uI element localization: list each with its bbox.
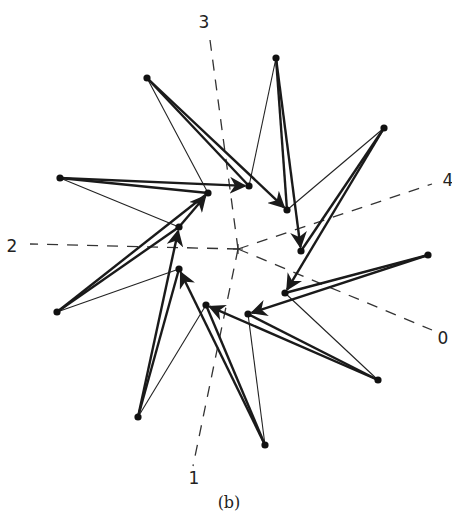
outer-node-dot bbox=[134, 413, 141, 420]
thin-edge bbox=[138, 305, 206, 417]
star-polygon-diagram: 01234 (b) bbox=[0, 0, 452, 518]
thin-edge bbox=[249, 58, 276, 186]
axis-label-3: 3 bbox=[199, 12, 210, 32]
heavy-edge bbox=[285, 255, 428, 293]
axis-line-3 bbox=[210, 40, 238, 249]
arrow-edge bbox=[276, 58, 300, 247]
heavy-edge bbox=[147, 78, 249, 186]
outer-node-dot bbox=[374, 376, 381, 383]
inner-node-dot bbox=[283, 206, 290, 213]
thin-edge bbox=[57, 269, 179, 312]
heavy-edge bbox=[138, 269, 179, 417]
thin-edge bbox=[147, 78, 208, 193]
center-cross-icon bbox=[233, 244, 243, 254]
arrow-edge bbox=[210, 307, 378, 380]
inner-node-dot bbox=[175, 223, 182, 230]
outer-node-dot bbox=[143, 74, 150, 81]
axis-line-2 bbox=[30, 244, 238, 249]
arrow-edge bbox=[252, 255, 428, 313]
outer-node-dot bbox=[261, 441, 268, 448]
inner-node-dot bbox=[244, 310, 251, 317]
outer-node-dot bbox=[380, 124, 387, 131]
arrow-edge bbox=[287, 128, 384, 290]
axis-label-1: 1 bbox=[189, 468, 200, 488]
figure-caption: (b) bbox=[218, 493, 241, 512]
thin-edge bbox=[285, 293, 378, 380]
inner-node-dot bbox=[202, 301, 209, 308]
inner-node-dot bbox=[281, 289, 288, 296]
axis-label-0: 0 bbox=[438, 328, 449, 348]
axis-label-2: 2 bbox=[7, 236, 18, 256]
inner-node-dot bbox=[204, 189, 211, 196]
dashed-axes bbox=[30, 40, 432, 466]
outer-node-dot bbox=[272, 54, 279, 61]
inner-node-dot bbox=[175, 265, 182, 272]
axis-line-1 bbox=[193, 249, 238, 466]
heavy-edge bbox=[57, 227, 179, 312]
heavy-edge bbox=[248, 314, 378, 380]
outer-node-dot bbox=[53, 308, 60, 315]
axis-label-4: 4 bbox=[443, 170, 452, 190]
inner-node-dot bbox=[297, 247, 304, 254]
axis-labels: 01234 bbox=[7, 12, 452, 488]
arrow-edge bbox=[181, 273, 265, 445]
inner-node-dot bbox=[245, 182, 252, 189]
heavy-edge bbox=[57, 193, 208, 312]
outer-node-dot bbox=[424, 251, 431, 258]
axis-line-4 bbox=[238, 184, 432, 249]
arrow-edge bbox=[138, 231, 178, 417]
outer-node-dot bbox=[56, 174, 63, 181]
heavy-edge bbox=[301, 128, 384, 251]
thin-edge bbox=[60, 178, 179, 227]
thin-edge bbox=[287, 128, 384, 210]
